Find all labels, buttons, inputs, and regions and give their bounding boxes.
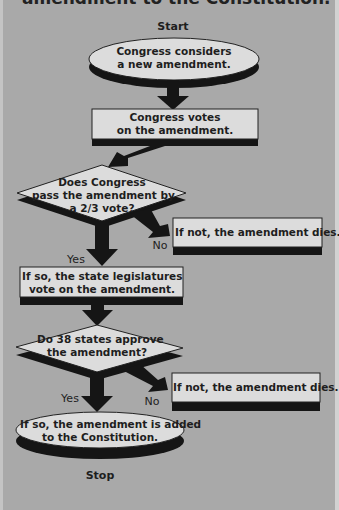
no-label-1: No (148, 239, 172, 252)
yes-arrow-2 (81, 372, 113, 412)
end-line1: If so, the amendment is added (20, 418, 180, 431)
no-box-1-text: If not, the amendment dies. (175, 226, 321, 239)
start-label: Start (148, 20, 198, 33)
yes-label-2: Yes (56, 392, 84, 405)
step1-line2: a new amendment. (109, 58, 239, 71)
step2-line2: on the amendment. (95, 124, 255, 137)
no-arrow-2 (122, 364, 168, 392)
no-box-2-text: If not, the amendment dies. (173, 381, 319, 394)
end-line2: to the Constitution. (20, 431, 180, 444)
decision1-line1: Does Congress (42, 176, 162, 189)
stop-label: Stop (80, 469, 120, 482)
yes-arrow-1 (86, 221, 118, 266)
decision2-line1: Do 38 states approve (37, 333, 157, 346)
step1-line1: Congress considers (109, 45, 239, 58)
arrow-down-3 (82, 305, 113, 326)
step2-line1: Congress votes (95, 111, 255, 124)
decision1-line2: pass the amendment by (32, 189, 172, 202)
decision1-line3: a 2/3 vote? (62, 202, 142, 215)
yes-label-1: Yes (62, 253, 90, 266)
no-label-2: No (140, 395, 164, 408)
arrow-diagonal-2 (108, 146, 165, 167)
step3-line2: vote on the amendment. (22, 283, 182, 296)
step3-line1: If so, the state legislatures (22, 270, 182, 283)
decision2-line2: the amendment? (37, 346, 157, 359)
